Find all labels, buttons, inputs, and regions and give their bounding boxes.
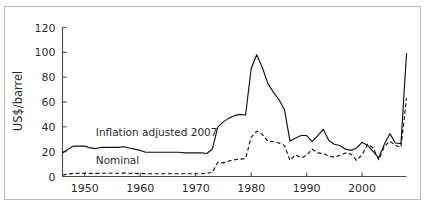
y-axis-ticks: 020406080100120 [35,22,67,184]
line-chart: 020406080100120 195019601970198019902000… [0,0,425,205]
x-tick-label: 1950 [71,182,99,195]
series-line-inflation-adjusted-2007 [63,54,407,158]
x-tick-label: 1990 [293,182,321,195]
x-tick-label: 1970 [182,182,210,195]
y-tick-label: 40 [42,121,56,134]
x-axis-ticks: 195019601970198019902000 [71,173,376,195]
series-annotations: Inflation adjusted 2007Nominal [96,126,218,167]
y-tick-label: 80 [42,71,56,84]
y-tick-label: 100 [35,46,56,59]
y-tick-label: 20 [42,146,56,159]
series-label-inflation-adjusted-2007: Inflation adjusted 2007 [96,126,218,138]
x-tick-label: 1960 [126,182,154,195]
series-label-nominal: Nominal [96,154,139,166]
figure-container: 020406080100120 195019601970198019902000… [0,0,425,205]
x-tick-label: 1980 [237,182,265,195]
y-tick-label: 60 [42,96,56,109]
y-axis-title: US$/barrel [11,71,25,132]
y-tick-label: 120 [35,22,56,35]
y-tick-label: 0 [49,171,56,184]
x-tick-label: 2000 [348,182,376,195]
